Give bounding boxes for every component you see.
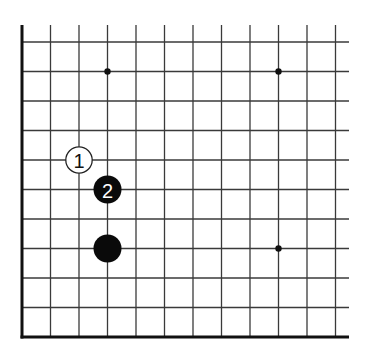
star-point-icon [275,245,281,251]
stones: 12 [66,147,122,263]
star-point-icon [275,68,281,74]
move-number-label: 2 [102,180,113,202]
grid-lines [22,25,349,337]
white-stone: 1 [66,147,92,173]
go-board: 12 [0,0,369,357]
black-stone [94,235,122,263]
move-number-label: 1 [73,150,84,172]
star-point-icon [104,68,110,74]
black-stone-icon [94,235,122,263]
black-stone: 2 [94,176,122,204]
